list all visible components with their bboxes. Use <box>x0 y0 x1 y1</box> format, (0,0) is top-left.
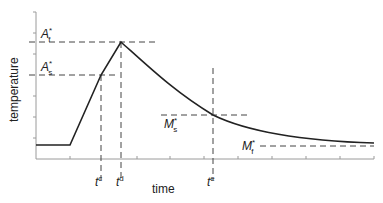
x-axis-title: time <box>152 182 175 196</box>
mf-label: M*f <box>242 138 255 156</box>
tc-label: tc <box>95 174 102 189</box>
as-label: A*s <box>40 59 52 77</box>
td-label: td <box>116 174 124 189</box>
temperature-curve <box>36 42 374 145</box>
ms-label: M*s <box>164 116 177 134</box>
y-axis-title: temperature <box>7 57 21 122</box>
axes <box>33 12 374 159</box>
temperature-time-diagram: A*f A*s M*s M*f tc td te time temperatur… <box>0 0 383 203</box>
te-label: te <box>207 174 215 189</box>
af-label: A*f <box>40 26 52 44</box>
